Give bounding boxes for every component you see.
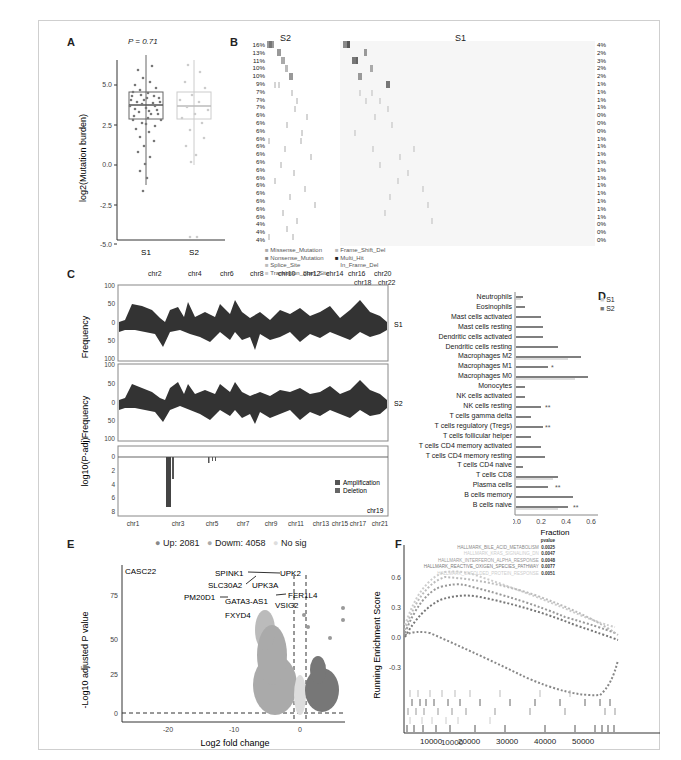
svg-text:4: 4 xyxy=(111,481,115,488)
panel-a-ylabel: log2(Mutation burden) xyxy=(78,114,88,202)
panel-a-xtick-s1: S1 xyxy=(141,248,151,257)
panel-a-boxplot: log2(Mutation burden) 5.0 2.5 0.0 -2.5 -… xyxy=(60,40,235,270)
svg-text:UPK3A: UPK3A xyxy=(252,581,279,590)
svg-text:SLC30A2: SLC30A2 xyxy=(208,581,243,590)
svg-text:chr5: chr5 xyxy=(206,520,219,527)
svg-text:100: 100 xyxy=(104,361,115,368)
svg-text:100: 100 xyxy=(104,282,115,289)
svg-text:GATA3-AS1: GATA3-AS1 xyxy=(225,597,268,606)
svg-text:0: 0 xyxy=(111,319,115,326)
svg-text:chr19: chr19 xyxy=(367,507,384,514)
svg-text:Deletion: Deletion xyxy=(343,487,367,494)
svg-text:chr21: chr21 xyxy=(372,520,389,527)
svg-text:**: ** xyxy=(573,504,579,511)
panel-d-cell-list: NeutrophilsEosinophilsMast cells activat… xyxy=(400,292,512,510)
svg-text:100: 100 xyxy=(104,435,115,442)
svg-text:SPINK1: SPINK1 xyxy=(215,569,244,578)
svg-text:Fraction: Fraction xyxy=(541,528,570,537)
svg-text:FXYD4: FXYD4 xyxy=(225,611,251,620)
svg-text:0.4: 0.4 xyxy=(561,518,571,525)
svg-text:UPK2: UPK2 xyxy=(280,569,301,578)
svg-text:0.3: 0.3 xyxy=(391,604,401,611)
panel-e-volcano-plot: -Log10 adjusted P value 75 50 25 0 -20 -… xyxy=(60,560,345,755)
panel-b-right-pct-list: 4%2%3%2%2%1%1%1%1%0%0%0%1%1%1%1%1%1%1%1%… xyxy=(597,41,619,244)
svg-text:-2.5: -2.5 xyxy=(100,202,112,209)
svg-text:-10: -10 xyxy=(229,726,239,733)
panel-c-cnv-plots: Frequency Frequency log10(P-adj) 100 50 … xyxy=(60,282,405,542)
panel-c-label: C xyxy=(67,268,75,280)
svg-text:50: 50 xyxy=(108,417,116,424)
svg-text:-20: -20 xyxy=(163,726,173,733)
svg-text:**: ** xyxy=(555,484,561,491)
svg-text:Running Enrichment Score: Running Enrichment Score xyxy=(372,591,382,699)
svg-text:2: 2 xyxy=(111,467,115,474)
svg-text:chr7: chr7 xyxy=(237,520,250,527)
panel-b-s2-oncoplot xyxy=(267,41,337,246)
panel-b-s1-oncoplot xyxy=(340,41,595,246)
svg-text:chr11: chr11 xyxy=(288,520,304,527)
svg-text:0.6: 0.6 xyxy=(391,574,401,581)
svg-text:0.0: 0.0 xyxy=(513,518,521,525)
svg-text:0.2: 0.2 xyxy=(536,518,546,525)
svg-text:Frequency: Frequency xyxy=(80,395,90,438)
svg-text:FER1L4: FER1L4 xyxy=(288,591,318,600)
svg-text:8: 8 xyxy=(111,508,115,515)
svg-text:chr9: chr9 xyxy=(265,520,278,527)
svg-text:50: 50 xyxy=(108,300,116,307)
svg-text:50: 50 xyxy=(108,380,116,387)
svg-text:6: 6 xyxy=(111,494,115,501)
svg-text:VSIG2: VSIG2 xyxy=(275,601,299,610)
svg-text:-0.3: -0.3 xyxy=(389,664,401,671)
svg-text:0: 0 xyxy=(111,453,115,460)
svg-text:25: 25 xyxy=(110,671,118,678)
svg-text:chr13: chr13 xyxy=(313,520,330,527)
svg-text:0.0: 0.0 xyxy=(102,161,112,168)
svg-text:**: ** xyxy=(545,424,551,431)
svg-text:*: * xyxy=(551,364,554,371)
svg-text:CASC22: CASC22 xyxy=(125,567,157,576)
svg-text:chr17: chr17 xyxy=(350,520,367,527)
svg-text:chr1: chr1 xyxy=(127,520,140,527)
panel-e-legend: ● Up: 2081 ● Dowm: 4058 ● No sig xyxy=(155,538,306,548)
svg-text:chr3: chr3 xyxy=(172,520,185,527)
svg-text:chr15: chr15 xyxy=(332,520,349,527)
svg-text:0.6: 0.6 xyxy=(586,518,596,525)
svg-text:-Log10 adjusted P value: -Log10 adjusted P value xyxy=(80,612,90,709)
svg-text:log10(P-adj): log10(P-adj) xyxy=(80,437,90,486)
svg-text:0: 0 xyxy=(298,726,302,733)
svg-text:Amplification: Amplification xyxy=(343,479,380,487)
svg-text:75: 75 xyxy=(110,592,118,599)
panel-e-label: E xyxy=(67,538,74,550)
svg-text:0: 0 xyxy=(111,399,115,406)
svg-text:50: 50 xyxy=(110,636,118,643)
svg-text:2.5: 2.5 xyxy=(102,122,112,129)
svg-text:**: ** xyxy=(545,404,551,411)
svg-text:Log2 fold change: Log2 fold change xyxy=(200,738,269,748)
svg-text:Frequency: Frequency xyxy=(80,315,90,358)
panel-b-label: B xyxy=(230,36,238,48)
svg-text:50: 50 xyxy=(108,337,116,344)
svg-text:5.0: 5.0 xyxy=(102,81,112,88)
svg-text:-5.0: -5.0 xyxy=(100,241,112,248)
svg-text:PM20D1: PM20D1 xyxy=(184,593,216,602)
svg-text:0: 0 xyxy=(114,710,118,717)
panel-f-gsea-plot: Running Enrichment Score 0.6 0.3 0.0 -0.… xyxy=(360,545,660,755)
svg-text:0.0: 0.0 xyxy=(391,634,401,641)
panel-a-xtick-s2: S2 xyxy=(189,248,199,257)
panel-d-fraction-plot: * ** ** ** ** 0.0 0.2 0.4 0.6 Fraction xyxy=(513,290,603,540)
panel-b-left-pct-list: 16%13%11%10%10%9%7%7%7%6%6%6%6%6%6%6%6%6… xyxy=(240,41,265,244)
